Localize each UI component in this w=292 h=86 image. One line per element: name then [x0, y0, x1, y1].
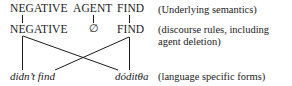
node-didnt-find: didn’t find: [10, 71, 55, 82]
edge-find-didnt: [55, 37, 129, 70]
level-note-semantics: (Underlying semantics): [158, 4, 257, 17]
level-note-forms: (language specific forms): [158, 71, 265, 84]
node-null-discourse: ∅: [89, 24, 99, 35]
node-agent-semantic: AGENT: [73, 3, 112, 15]
node-find-discourse: FIND: [117, 24, 144, 36]
level-note-discourse-line1: (discourse rules, including: [158, 24, 269, 37]
edge-negative-doditha: [23, 36, 118, 70]
node-doditha: dóditθa: [115, 71, 149, 82]
node-find-semantic: FIND: [117, 3, 144, 15]
node-negative-semantic: NEGATIVE: [10, 3, 68, 15]
node-negative-discourse: NEGATIVE: [10, 24, 68, 36]
level-note-discourse-line2: agent deletion): [158, 36, 221, 49]
